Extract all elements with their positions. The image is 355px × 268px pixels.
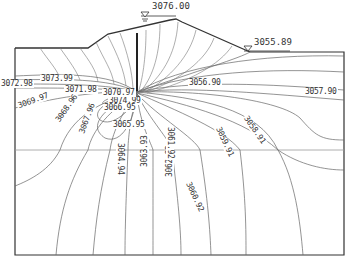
contour-label: 3070.97	[102, 89, 136, 97]
downstream-water-level-value: 3055.89	[254, 37, 292, 47]
downstream-water-level-label: 3055.89	[254, 37, 292, 47]
contour-label: 3057.90	[304, 88, 338, 96]
contour-label: 3063.93	[141, 134, 149, 168]
seepage-diagram	[0, 0, 355, 268]
contour-label: 3064.94	[116, 142, 124, 176]
dam-profile	[15, 19, 250, 52]
upstream-water-level-value: 3076.00	[152, 1, 190, 11]
contour-label: 3061.92	[166, 126, 174, 160]
contour-label: 3071.98	[64, 86, 98, 94]
contour-label: 3073.99	[40, 75, 74, 83]
upstream-water-level-label: 3076.00	[152, 1, 190, 11]
contour-label: 3072.98	[0, 80, 34, 88]
contour-label: 3065.95	[112, 121, 146, 129]
contour-label: 3066.95	[103, 104, 137, 112]
contour-label: 3056.90	[188, 79, 222, 87]
